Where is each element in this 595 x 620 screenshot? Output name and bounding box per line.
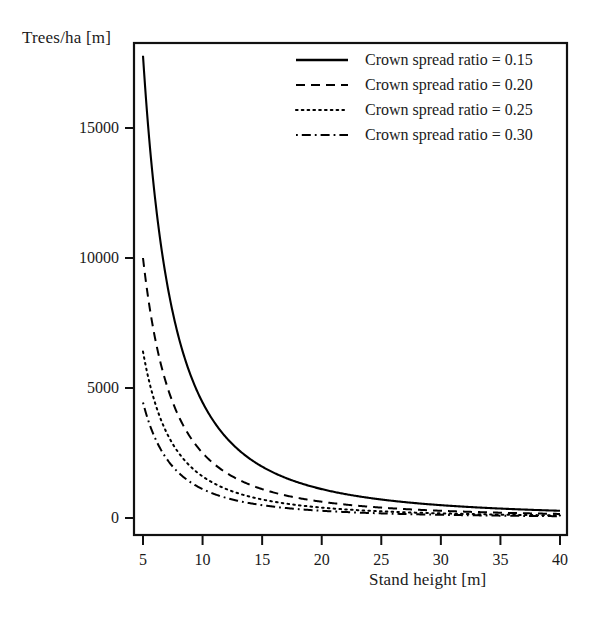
- chart-figure: Trees/ha [m] Stand height [m] 0500010000…: [0, 0, 595, 620]
- legend-label: Crown spread ratio = 0.15: [365, 51, 533, 69]
- x-tick-label: 35: [492, 551, 508, 569]
- x-tick-label: 20: [314, 551, 330, 569]
- y-tick-label: 0: [0, 509, 119, 527]
- legend-label: Crown spread ratio = 0.30: [365, 126, 533, 144]
- series-line-0-15: [143, 56, 560, 511]
- x-tick-label: 5: [139, 551, 147, 569]
- x-tick-label: 10: [195, 551, 211, 569]
- series-line-0-25: [143, 352, 560, 516]
- x-tick-label: 40: [552, 551, 568, 569]
- legend-line-samples: [296, 60, 348, 135]
- data-series-group: [143, 56, 560, 516]
- series-line-0-3: [143, 402, 560, 516]
- x-tick-label: 25: [373, 551, 389, 569]
- legend-label: Crown spread ratio = 0.25: [365, 101, 533, 119]
- y-tick-label: 15000: [0, 119, 119, 137]
- x-tick-label: 30: [433, 551, 449, 569]
- y-tick-label: 10000: [0, 249, 119, 267]
- y-tick-label: 5000: [0, 379, 119, 397]
- legend-label: Crown spread ratio = 0.20: [365, 76, 533, 94]
- x-tick-label: 15: [254, 551, 270, 569]
- series-line-0-2: [143, 258, 560, 514]
